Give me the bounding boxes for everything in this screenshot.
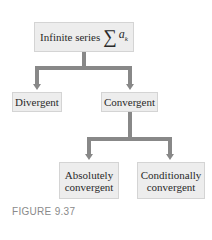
sigma-symbol: ∑ bbox=[103, 30, 117, 44]
conditionally-line2: convergent bbox=[147, 181, 196, 193]
conditionally-convergent-box: Conditionally convergent bbox=[137, 162, 205, 199]
absolutely-line1: Absolutely bbox=[65, 169, 113, 181]
divergent-box: Divergent bbox=[12, 92, 62, 112]
connector-absolutely-stem bbox=[87, 137, 91, 155]
connector-root-horizontal bbox=[35, 66, 132, 70]
arrow-absolutely-icon bbox=[85, 154, 93, 160]
connector-convergent-vertical bbox=[128, 112, 132, 140]
convergent-label: Convergent bbox=[104, 96, 155, 108]
arrow-conditionally-icon bbox=[166, 154, 174, 160]
connector-divergent-stem bbox=[35, 66, 39, 85]
absolutely-line2: convergent bbox=[65, 181, 114, 193]
connector-conditionally-stem bbox=[168, 137, 172, 155]
convergent-box: Convergent bbox=[101, 92, 158, 112]
connector-convergent-horizontal bbox=[87, 137, 172, 141]
series-term: ak bbox=[119, 28, 128, 45]
divergent-label: Divergent bbox=[15, 96, 59, 108]
connector-convergent-stem bbox=[128, 66, 132, 85]
absolutely-convergent-box: Absolutely convergent bbox=[59, 162, 119, 199]
infinite-series-box: Infinite series ∑ ak bbox=[34, 22, 134, 52]
arrow-divergent-icon bbox=[33, 84, 41, 90]
conditionally-line1: Conditionally bbox=[141, 169, 202, 181]
arrow-convergent-icon bbox=[126, 84, 134, 90]
infinite-series-label: Infinite series bbox=[40, 31, 100, 43]
figure-caption: FIGURE 9.37 bbox=[12, 206, 75, 217]
